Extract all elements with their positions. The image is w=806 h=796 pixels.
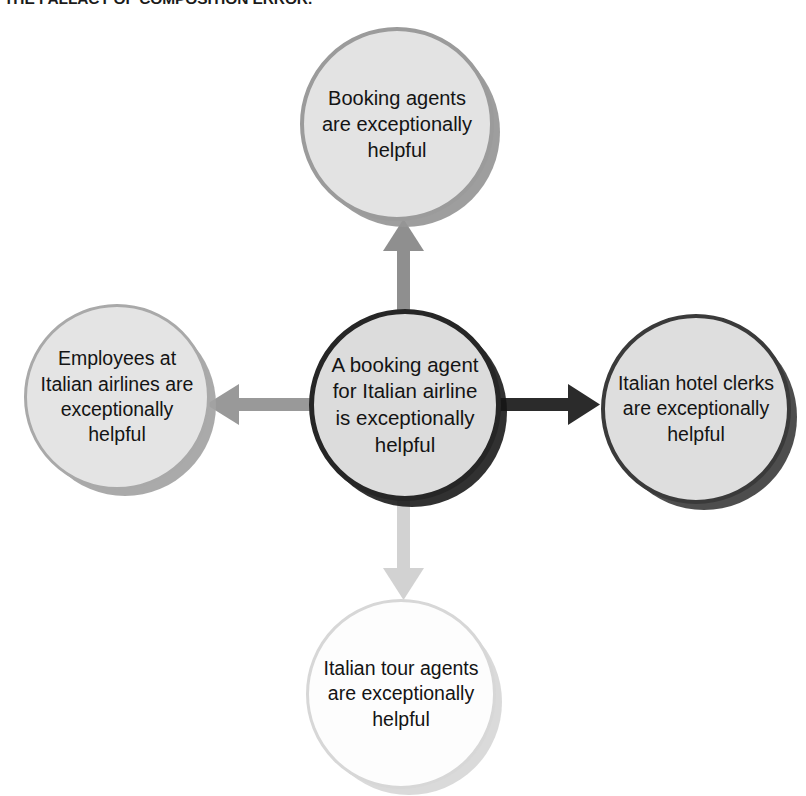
node-italian-hotel-clerks-label: Italian hotel clerks are exceptionally h… xyxy=(605,371,787,447)
arrow-down-icon xyxy=(383,498,424,600)
node-booking-agents-label: Booking agents are exceptionally helpful xyxy=(304,85,490,163)
node-italian-hotel-clerks[interactable]: Italian hotel clerks are exceptionally h… xyxy=(601,314,791,504)
arrow-right-icon xyxy=(490,384,600,425)
node-center-premise[interactable]: A booking agent for Italian airline is e… xyxy=(309,309,501,501)
node-italian-tour-agents-label: Italian tour agents are exceptionally he… xyxy=(309,656,493,732)
node-italian-airline-employees[interactable]: Employees at Italian airlines are except… xyxy=(24,304,210,490)
arrow-left-icon xyxy=(206,384,322,425)
diagram-page: THE FALLACY OF COMPOSITION ERROR. Bookin… xyxy=(0,0,806,796)
node-italian-tour-agents[interactable]: Italian tour agents are exceptionally he… xyxy=(306,599,496,789)
node-italian-airline-employees-label: Employees at Italian airlines are except… xyxy=(27,346,207,447)
node-booking-agents[interactable]: Booking agents are exceptionally helpful xyxy=(300,27,494,221)
node-center-premise-label: A booking agent for Italian airline is e… xyxy=(314,352,496,459)
